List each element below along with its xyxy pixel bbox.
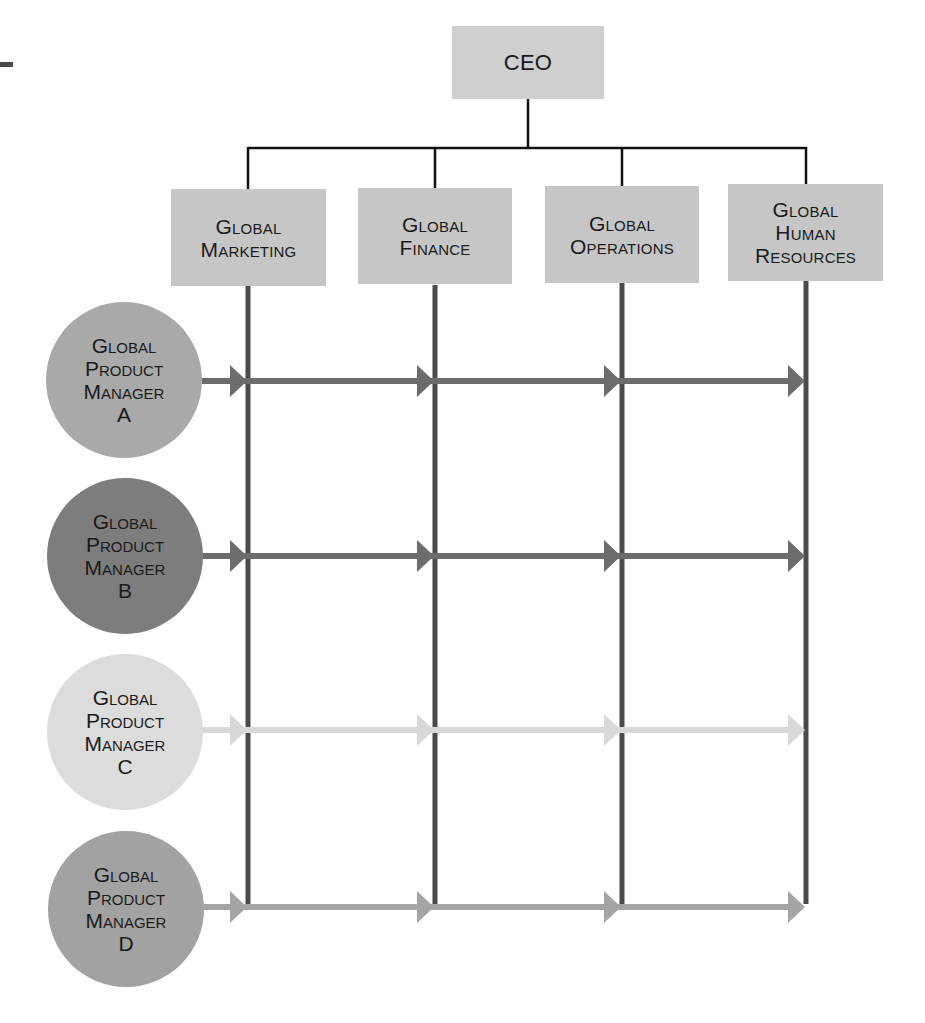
function-verticals bbox=[248, 281, 806, 904]
arrow-row-c bbox=[202, 714, 805, 746]
function-label-marketing: Global Marketing bbox=[201, 215, 297, 261]
product-manager-a-label: Global Product Manager A bbox=[84, 334, 165, 426]
product-manager-b: Global Product Manager B bbox=[47, 478, 203, 634]
product-manager-a: Global Product Manager A bbox=[46, 302, 202, 458]
product-manager-d-label: Global Product Manager D bbox=[86, 863, 167, 955]
arrow-row-a bbox=[202, 365, 805, 397]
ceo-box: CEO bbox=[452, 26, 604, 99]
product-manager-b-label: Global Product Manager B bbox=[85, 510, 166, 602]
hierarchy-connectors bbox=[248, 99, 806, 189]
matrix-org-chart: CEO Global Marketing Global Finance Glob… bbox=[0, 0, 925, 1023]
function-box-operations: Global Operations bbox=[545, 186, 699, 283]
ceo-label: CEO bbox=[504, 51, 552, 74]
product-manager-c-label: Global Product Manager C bbox=[85, 686, 166, 778]
function-label-finance: Global Finance bbox=[400, 213, 471, 259]
function-label-human-resources: Global Human Resources bbox=[755, 198, 856, 267]
function-label-operations: Global Operations bbox=[570, 212, 674, 258]
function-box-marketing: Global Marketing bbox=[171, 189, 326, 286]
product-manager-d: Global Product Manager D bbox=[48, 831, 204, 987]
arrow-row-b bbox=[202, 540, 805, 572]
product-manager-c: Global Product Manager C bbox=[47, 654, 203, 810]
function-box-finance: Global Finance bbox=[358, 188, 512, 284]
function-box-human-resources: Global Human Resources bbox=[728, 184, 883, 281]
arrow-row-d bbox=[202, 891, 805, 923]
